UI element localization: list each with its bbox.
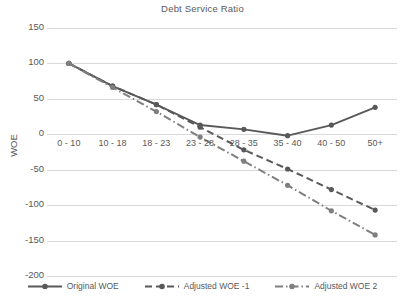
x-axis-tick-label: 35 - 40 bbox=[274, 138, 302, 148]
legend-swatch bbox=[28, 282, 62, 291]
y-axis-tick-label: -150 bbox=[6, 235, 44, 245]
data-point bbox=[110, 85, 115, 90]
x-axis-tick-label: 50+ bbox=[367, 138, 382, 148]
y-axis-tick-label: -50 bbox=[6, 164, 44, 174]
y-axis-tick-label: 150 bbox=[6, 22, 44, 32]
chart-title: Debt Service Ratio bbox=[0, 3, 405, 14]
x-axis-tick-labels: 0 - 1010 - 1818 - 2323 - 2828 - 3535 - 4… bbox=[47, 138, 397, 152]
legend-swatch bbox=[145, 282, 179, 291]
x-axis-tick-label: 0 - 10 bbox=[57, 138, 80, 148]
chart-container: Debt Service Ratio WOE 150100500-50-100-… bbox=[0, 0, 405, 298]
data-point bbox=[373, 232, 378, 237]
legend-swatch bbox=[275, 282, 309, 291]
x-axis-tick-label: 28 - 35 bbox=[230, 138, 258, 148]
y-axis-tick-label: 100 bbox=[6, 57, 44, 67]
y-axis-tick-label: -200 bbox=[6, 270, 44, 280]
data-point bbox=[154, 102, 159, 107]
series-adjusted-woe-1 bbox=[66, 61, 377, 213]
legend-label: Original WOE bbox=[67, 281, 119, 291]
data-point bbox=[285, 183, 290, 188]
gridline bbox=[47, 276, 397, 277]
data-point bbox=[373, 105, 378, 110]
data-point bbox=[329, 208, 334, 213]
data-point bbox=[241, 127, 246, 132]
data-point bbox=[198, 125, 203, 130]
x-axis-tick-label: 23 - 28 bbox=[186, 138, 214, 148]
data-point bbox=[373, 208, 378, 213]
legend-item[interactable]: Adjusted WOE 2 bbox=[275, 281, 377, 291]
legend-label: Adjusted WOE -1 bbox=[184, 281, 250, 291]
legend-label: Adjusted WOE 2 bbox=[314, 281, 377, 291]
series-layer bbox=[47, 28, 397, 276]
y-axis-tick-label: -100 bbox=[6, 199, 44, 209]
data-point bbox=[66, 61, 71, 66]
y-axis-tick-label: 50 bbox=[6, 93, 44, 103]
legend-item[interactable]: Adjusted WOE -1 bbox=[145, 281, 250, 291]
chart-legend: Original WOEAdjusted WOE -1Adjusted WOE … bbox=[0, 281, 405, 291]
plot-area bbox=[47, 28, 397, 276]
y-axis-tick-labels: 150100500-50-100-150-200 bbox=[0, 28, 44, 276]
data-point bbox=[329, 122, 334, 127]
data-point bbox=[241, 159, 246, 164]
legend-item[interactable]: Original WOE bbox=[28, 281, 119, 291]
data-point bbox=[329, 187, 334, 192]
x-axis-tick-label: 18 - 23 bbox=[142, 138, 170, 148]
series-original-woe bbox=[66, 61, 377, 138]
y-axis-tick-label: 0 bbox=[6, 128, 44, 138]
x-axis-tick-label: 10 - 18 bbox=[99, 138, 127, 148]
data-point bbox=[285, 166, 290, 171]
x-axis-tick-label: 40 - 50 bbox=[317, 138, 345, 148]
data-point bbox=[154, 109, 159, 114]
